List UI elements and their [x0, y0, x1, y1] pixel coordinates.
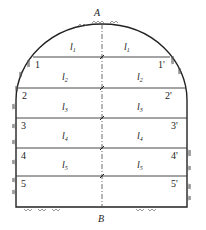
- right-point-3: 3': [171, 120, 178, 131]
- left-point-4: 4: [21, 150, 26, 161]
- left-point-3: 3: [21, 120, 26, 131]
- point-label-a: A: [93, 7, 101, 18]
- right-point-2: 2': [165, 90, 172, 101]
- layer-label-right-4: l4: [137, 130, 143, 142]
- layer-label-right-1: l1: [124, 41, 130, 53]
- right-point-4: 4': [171, 150, 178, 161]
- ground-hatching: [12, 21, 191, 211]
- layer-label-right-2: l2: [137, 71, 143, 83]
- tunnel-contour: [16, 24, 187, 207]
- layer-label-left-4: l4: [62, 130, 68, 142]
- left-point-5: 5: [21, 178, 26, 189]
- layer-label-right-5: l5: [137, 159, 143, 171]
- tunnel-section-diagram: A B 1 2 3 4 5 1' 2' 3' 4' 5' l1 l2 l3 l4…: [0, 0, 206, 230]
- section-lines: [16, 57, 187, 176]
- right-point-1: 1': [158, 59, 165, 70]
- right-point-5: 5': [171, 178, 178, 189]
- layer-label-left-1: l1: [70, 41, 76, 53]
- layer-label-left-5: l5: [62, 159, 68, 171]
- left-point-1: 1: [35, 59, 40, 70]
- layer-label-left-3: l3: [62, 101, 68, 113]
- point-label-b: B: [98, 213, 104, 224]
- layer-label-left-2: l2: [62, 71, 68, 83]
- layer-label-right-3: l3: [137, 101, 143, 113]
- left-point-2: 2: [22, 90, 27, 101]
